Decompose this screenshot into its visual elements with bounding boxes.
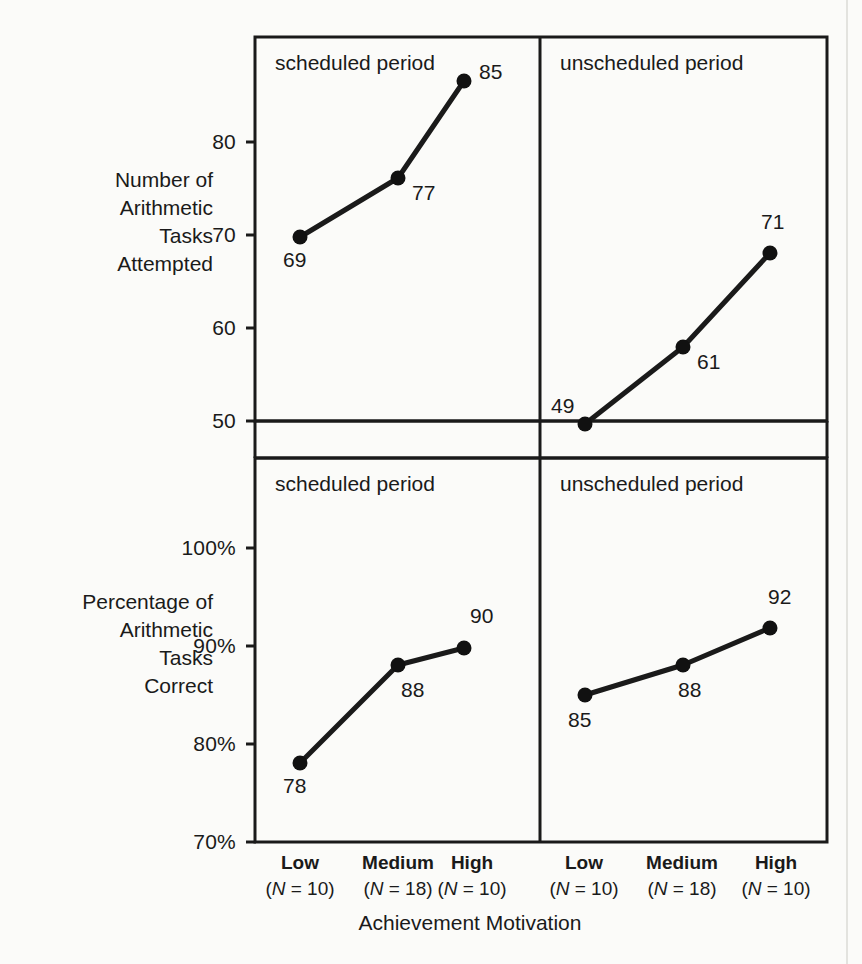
point-label-correct-scheduled-high: 90	[470, 604, 493, 629]
series-correct-scheduled	[293, 641, 472, 771]
x-group-n-6: (N = 10)	[716, 878, 836, 900]
data-point-low	[578, 688, 593, 703]
data-point-low	[293, 756, 308, 771]
y-axis-title-upper-line-1: Number of	[18, 166, 213, 194]
series-line	[300, 648, 464, 763]
y-tick-label-70: 70	[178, 223, 236, 248]
data-point-medium	[391, 171, 406, 186]
x-group-label-5: Medium	[632, 852, 732, 874]
data-point-high	[763, 621, 778, 636]
x-group-n-3: (N = 10)	[412, 878, 532, 900]
x-group-label-3: High	[422, 852, 522, 874]
data-point-medium	[676, 658, 691, 673]
x-axis-title: Achievement Motivation	[330, 911, 610, 936]
y-axis-title-upper: Number of Arithmetic Tasks Attempted	[18, 166, 213, 278]
point-label-correct-unscheduled-high: 92	[768, 585, 791, 610]
point-label-correct-unscheduled-low: 85	[568, 708, 591, 733]
panel-caption-lower-left: scheduled period	[275, 472, 435, 497]
y-tick-label-100-percent: 100%	[158, 536, 236, 561]
y-tick-label-50: 50	[178, 409, 236, 434]
point-label-attempted-scheduled-low: 69	[283, 248, 306, 273]
series-line	[585, 253, 770, 424]
y-axis-title-lower-line-4: Correct	[18, 672, 213, 700]
point-label-attempted-scheduled-medium: 77	[412, 181, 435, 206]
data-point-high	[457, 641, 472, 656]
panel-caption-lower-right: unscheduled period	[560, 472, 743, 497]
panel-caption-upper-right: unscheduled period	[560, 51, 743, 76]
point-label-attempted-unscheduled-medium: 61	[697, 350, 720, 375]
data-point-medium	[676, 340, 691, 355]
x-group-label-6: High	[726, 852, 826, 874]
point-label-attempted-unscheduled-low: 49	[551, 394, 574, 419]
y-tick-label-90-percent: 90%	[158, 634, 236, 659]
x-group-label-4: Low	[534, 852, 634, 874]
point-label-correct-unscheduled-medium: 88	[678, 678, 701, 703]
series-line	[300, 81, 464, 237]
point-label-attempted-unscheduled-high: 71	[761, 210, 784, 235]
series-attempted-scheduled	[293, 74, 472, 245]
y-tick-label-70-percent: 70%	[158, 830, 236, 855]
data-point-high	[763, 246, 778, 261]
series-attempted-unscheduled	[578, 246, 778, 432]
data-point-low	[293, 230, 308, 245]
y-tick-label-80-percent: 80%	[158, 732, 236, 757]
x-group-label-1: Low	[250, 852, 350, 874]
data-point-medium	[391, 658, 406, 673]
y-axis-title-upper-line-4: Attempted	[18, 250, 213, 278]
y-axis-title-lower-line-1: Percentage of	[18, 588, 213, 616]
point-label-attempted-scheduled-high: 85	[479, 60, 502, 85]
upper-chart-box	[255, 37, 827, 421]
y-tick-label-60: 60	[178, 316, 236, 341]
panel-caption-upper-left: scheduled period	[275, 51, 435, 76]
data-point-low	[578, 417, 593, 432]
data-point-high	[457, 74, 472, 89]
figure-root: Number of Arithmetic Tasks Attempted Per…	[0, 0, 862, 964]
point-label-correct-scheduled-low: 78	[283, 774, 306, 799]
row-gap-strip	[255, 421, 827, 458]
scan-page-edge	[846, 0, 848, 964]
y-axis-title-upper-line-2: Arithmetic	[18, 194, 213, 222]
point-label-correct-scheduled-medium: 88	[401, 678, 424, 703]
lower-chart-box	[255, 458, 827, 842]
y-tick-label-80: 80	[178, 130, 236, 155]
